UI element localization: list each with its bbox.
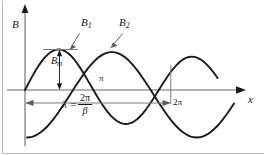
wavelength-denominator: β [78, 106, 92, 117]
wavelength-label-lead: λ = [62, 99, 77, 110]
wavelength-numerator: 2π [78, 93, 92, 104]
x-axis-arrowhead-icon [236, 86, 246, 94]
curve-b1-label-base: B [81, 16, 88, 28]
callout-b2-group [111, 34, 123, 49]
curve-b2-label-base: B [119, 16, 126, 28]
y-axis-label: B [12, 19, 19, 30]
curve-b2-label: B2 [119, 17, 130, 30]
amplitude-arrow-down-icon [57, 83, 62, 90]
wavelength-arrow-right-icon [163, 100, 172, 106]
x-axis-label: x [248, 94, 253, 105]
tick-label-two-pi: 2π [173, 98, 182, 107]
amplitude-label: Bm [51, 56, 62, 68]
tick-label-pi: π [99, 74, 104, 83]
curve-b1-label: B1 [81, 17, 92, 30]
wavelength-annotation-group [25, 65, 171, 106]
y-axis-arrowhead-icon [22, 4, 29, 13]
wavelength-fraction: 2πβ [78, 93, 92, 116]
amplitude-label-subscript: m [57, 60, 62, 68]
waveform-figure: B x B1 B2 Bm π 2π λ =2πβ [0, 0, 266, 155]
callout-line-b2 [113, 34, 123, 46]
callout-arrowhead-b2-icon [111, 43, 118, 49]
curve-b2-label-subscript: 2 [126, 21, 130, 30]
callout-line-b1 [72, 34, 80, 47]
wavelength-arrow-left-icon [25, 100, 34, 106]
curve-b1-label-subscript: 1 [88, 21, 92, 30]
wavelength-label: λ =2πβ [62, 93, 92, 116]
waveform-plot-svg [0, 0, 266, 155]
callout-b1-group [70, 34, 80, 51]
